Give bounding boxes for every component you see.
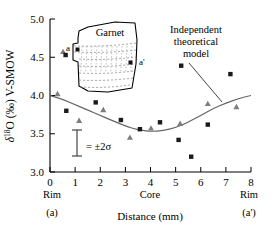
- inset-point-aprime: [129, 61, 133, 65]
- data-point-square: [228, 72, 232, 76]
- model-label-line1: Independent: [170, 24, 222, 35]
- inset-label-aprime: a': [139, 57, 145, 67]
- figure-panel: 3.03.54.04.55.0 012345678 δ18O (‰) V-SMO…: [0, 0, 275, 231]
- data-point-triangle: [55, 91, 61, 97]
- y-axis-tick-labels: 3.03.54.04.55.0: [30, 13, 44, 178]
- data-point-triangle: [148, 125, 154, 130]
- y-tick-label: 4.5: [30, 51, 44, 63]
- model-leader-line: [189, 63, 222, 102]
- data-point-square: [158, 120, 162, 124]
- y-axis-title-text: δ18O (‰) V-SMOW: [3, 49, 17, 142]
- data-point-triangle: [100, 107, 106, 112]
- garnet-inset: Garnet a a': [66, 22, 145, 92]
- inset-point-a: [76, 48, 80, 52]
- inset-label-a: a: [66, 43, 70, 53]
- x-axis-ticks: [50, 167, 251, 172]
- chart-svg: 3.03.54.04.55.0 012345678 δ18O (‰) V-SMO…: [0, 0, 275, 231]
- x-tick-label: 7: [223, 176, 229, 188]
- x-tick-label: 2: [98, 176, 104, 188]
- data-point-square: [63, 53, 67, 57]
- data-point-triangle: [205, 101, 211, 106]
- data-point-square: [138, 127, 142, 131]
- x-axis-title: Distance (mm): [117, 210, 183, 223]
- x-tick-label: 0: [47, 176, 53, 188]
- data-point-square: [94, 100, 98, 104]
- y-tick-label: 3.0: [30, 166, 44, 178]
- axis-label-rim-left: Rim: [43, 189, 61, 200]
- x-tick-label: 8: [248, 176, 254, 188]
- data-point-square: [176, 138, 180, 142]
- x-tick-label: 4: [148, 176, 154, 188]
- garnet-inset-title: Garnet: [96, 27, 125, 38]
- error-bar-annotation: = ±2σ: [72, 130, 112, 156]
- data-point-square: [179, 64, 183, 68]
- y-tick-label: 4.0: [30, 89, 44, 101]
- data-point-triangle: [233, 104, 239, 109]
- data-point-square: [64, 109, 68, 113]
- x-tick-label: 3: [123, 176, 129, 188]
- x-tick-label: 6: [198, 176, 204, 188]
- y-tick-label: 3.5: [30, 127, 44, 139]
- model-annotation: Independent theoretical model: [170, 24, 222, 102]
- x-axis-tick-labels: 012345678: [47, 176, 254, 188]
- data-point-triangle: [177, 121, 183, 126]
- data-point-triangle: [127, 134, 133, 139]
- error-bar-label: = ±2σ: [86, 141, 112, 152]
- axis-label-a: (a): [46, 207, 58, 219]
- x-tick-label: 5: [173, 176, 179, 188]
- data-point-square: [206, 122, 210, 126]
- data-point-square: [189, 155, 193, 159]
- y-tick-label: 5.0: [30, 13, 44, 25]
- x-tick-label: 1: [72, 176, 78, 188]
- axis-label-rim-right: Rim: [240, 189, 258, 200]
- model-label-line3: model: [183, 48, 209, 59]
- axis-label-core: Core: [140, 189, 161, 200]
- model-label-line2: theoretical: [174, 36, 218, 47]
- data-point-triangle: [76, 118, 82, 123]
- y-axis-title: δ18O (‰) V-SMOW: [3, 49, 17, 142]
- axis-label-aprime: (a'): [242, 207, 256, 219]
- data-point-square: [119, 118, 123, 122]
